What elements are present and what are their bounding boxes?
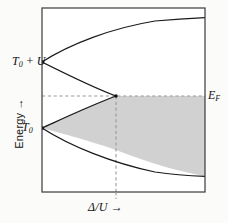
t0-plus-u-symbol: T: [12, 54, 19, 68]
x-axis-label: Δ/U→: [88, 201, 123, 213]
band-structure-plot: [0, 0, 228, 223]
t0-plus-u-rest: + U: [23, 54, 46, 68]
tick-label-t0-plus-u: T0 + U: [12, 55, 45, 69]
band-crossing-marker: [114, 94, 117, 97]
figure-container: Energy → Δ/U→ T0 + U T0 EF: [0, 0, 228, 223]
t0-subscript: 0: [29, 126, 33, 135]
fermi-level-label: EF: [208, 89, 220, 103]
x-axis-symbol: Δ/U: [88, 200, 108, 214]
x-axis-arrow-icon: →: [108, 200, 123, 214]
t0-symbol: T: [22, 120, 29, 134]
tick-label-t0: T0: [22, 121, 33, 135]
ef-subscript: F: [215, 94, 220, 103]
